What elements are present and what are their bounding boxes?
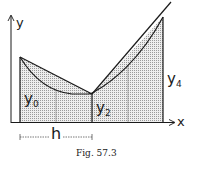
y0-base: y [24,90,33,108]
interval-label-h: h [51,126,61,142]
x-axis-label: x [177,115,185,128]
y4-base: y [167,70,176,88]
y2-base: y [96,99,105,117]
figure-caption: Fig. 57.3 [76,149,117,158]
ordinate-label-y0: y0 [24,92,39,109]
ordinate-label-y4: y4 [167,72,182,89]
y-axis-label: y [16,16,24,29]
y4-subscript: 4 [176,79,182,89]
ordinate-label-y2: y2 [96,101,111,118]
y2-subscript: 2 [105,108,111,118]
y0-subscript: 0 [33,99,39,109]
